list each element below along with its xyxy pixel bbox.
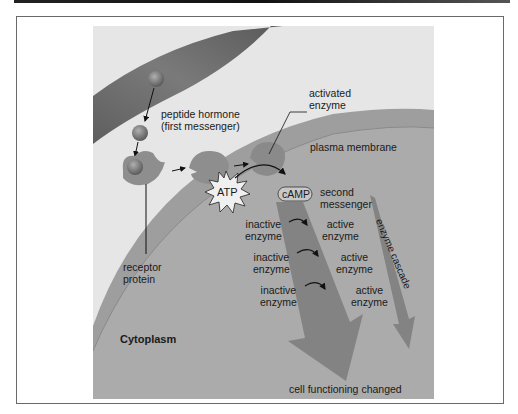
label-second-messenger: second messenger — [320, 186, 372, 210]
label-inactive-enzyme-1: inactive enzyme — [245, 218, 282, 242]
label-active-enzyme-2: active enzyme — [336, 251, 373, 275]
label-peptide-hormone: peptide hormone (first messenger) — [161, 108, 240, 132]
label-atp: ATP — [217, 186, 238, 198]
label-active-enzyme-1: active enzyme — [322, 218, 359, 242]
label-inactive-enzyme-2: inactive enzyme — [253, 251, 290, 275]
label-cytoplasm: Cytoplasm — [120, 333, 176, 345]
diagram-panel: peptide hormone (first messenger) activa… — [93, 26, 434, 399]
hormone-molecule-free — [132, 125, 148, 141]
hormone-molecule-in-vessel — [148, 71, 164, 87]
label-activated-enzyme: activated enzyme — [309, 87, 351, 111]
label-receptor-protein: receptor protein — [123, 261, 162, 285]
label-plasma-membrane: plasma membrane — [310, 141, 397, 153]
label-camp: cAMP — [282, 188, 310, 200]
label-active-enzyme-3: active enzyme — [351, 284, 388, 308]
top-rule — [14, 0, 510, 3]
label-cell-functioning-changed: cell functioning changed — [289, 383, 402, 395]
label-inactive-enzyme-3: inactive enzyme — [260, 284, 297, 308]
